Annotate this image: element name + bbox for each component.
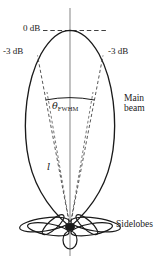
sidelobes-label: Sidelobes — [116, 219, 153, 229]
antenna-radiation-pattern-figure: 0 dB -3 dB -3 dB θFWHM l Main beam Sidel… — [0, 0, 163, 264]
main-beam-label-line2: beam — [124, 103, 145, 113]
sidelobe-right-upper — [70, 215, 121, 235]
half-power-left-label: -3 dB — [3, 47, 23, 57]
fwhm-subscript: FWHM — [58, 105, 79, 112]
theta-symbol: θ — [52, 100, 58, 111]
half-power-ray-left — [38, 56, 71, 228]
main-beam-label: Main beam — [124, 93, 145, 114]
fwhm-angle-label: θFWHM — [52, 101, 78, 112]
origin-node — [65, 223, 75, 231]
path-length-label: l — [47, 162, 50, 173]
zero-db-label: 0 dB — [23, 24, 40, 34]
half-power-right-label: -3 dB — [108, 47, 128, 57]
main-beam-label-line1: Main — [124, 93, 145, 103]
sidelobe-left-upper — [19, 215, 70, 235]
half-power-ray-right — [70, 56, 103, 228]
